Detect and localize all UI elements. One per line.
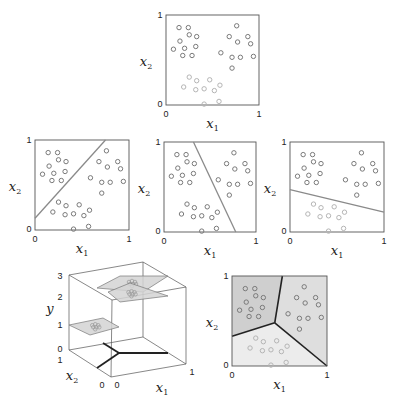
data-point-b <box>352 161 356 165</box>
data-point-b <box>373 169 377 173</box>
tick-x-1: 1 <box>253 236 258 246</box>
data-point-a <box>302 166 306 170</box>
tick-y-1: 1 <box>26 135 31 145</box>
data-point-b <box>116 159 120 163</box>
data-point-a <box>56 158 60 162</box>
data-point-b <box>216 178 220 182</box>
tick-x-1: 1 <box>324 370 329 380</box>
data-point-a <box>301 152 305 156</box>
data-point-b <box>246 34 250 38</box>
data-point-a <box>194 34 198 38</box>
data-point-c <box>210 215 214 219</box>
tick-x2-0: 0 <box>99 380 104 390</box>
data-point-a <box>310 152 314 156</box>
data-point-c <box>202 87 206 91</box>
data-point-a <box>190 53 194 57</box>
data-point-b <box>105 165 109 169</box>
data-point-c <box>192 206 196 210</box>
projected-boundary <box>97 353 119 368</box>
data-point-b <box>248 181 252 185</box>
data-point-c <box>71 212 75 216</box>
data-point-c <box>77 203 81 207</box>
cube-edge <box>111 300 112 377</box>
data-point-b <box>343 178 347 182</box>
data-point-c <box>64 204 68 208</box>
data-point-c <box>215 210 219 214</box>
data-point-c <box>56 200 60 204</box>
data-point-b <box>355 193 359 197</box>
data-point-b <box>227 193 231 197</box>
tick-x-1: 1 <box>256 109 261 119</box>
data-point-c <box>194 79 198 83</box>
tick-x-1: 1 <box>126 234 131 244</box>
data-point-b <box>121 179 125 183</box>
data-point-b <box>235 40 239 44</box>
data-point-c <box>319 206 323 210</box>
data-point-a <box>185 160 189 164</box>
data-point-b <box>108 180 112 184</box>
data-point-b <box>100 180 104 184</box>
tick-x-1: 1 <box>381 236 386 246</box>
tick-x-0: 0 <box>32 234 37 244</box>
data-point-b <box>248 42 252 46</box>
data-point-c <box>202 102 206 106</box>
tick-x-0: 0 <box>161 236 166 246</box>
separator-line <box>35 140 106 218</box>
data-point-b <box>251 54 255 58</box>
data-point-b <box>100 191 104 195</box>
data-point-a <box>177 25 181 29</box>
tick-y-1: 1 <box>57 320 62 330</box>
data-point-a <box>191 171 195 175</box>
data-point-a <box>184 152 188 156</box>
data-point-b <box>97 159 101 163</box>
x1-axis-label: x1 <box>204 243 216 260</box>
data-point-c <box>51 210 55 214</box>
data-point-b <box>230 66 234 70</box>
panels-group: 0101x1x20101x1x20101x1x20101x1x20101x1x2 <box>9 10 387 394</box>
data-point-c <box>179 212 183 216</box>
tick-y-0: 0 <box>155 226 160 236</box>
data-point-a <box>319 161 323 165</box>
data-point-a <box>63 169 67 173</box>
data-point-a <box>171 47 175 51</box>
data-point-c <box>326 214 330 218</box>
data-point-b <box>234 24 238 28</box>
figure-canvas: 0101x1x20101x1x20101x1x20101x1x20101x1x2… <box>0 0 396 404</box>
data-point-b <box>355 182 359 186</box>
tick-x1-1: 1 <box>189 367 194 377</box>
cube-3d-plot: 32101001yx2x1 <box>45 262 194 397</box>
tick-x1-0: 0 <box>114 380 119 390</box>
data-point-a <box>318 171 322 175</box>
tick-x-0: 0 <box>287 236 292 246</box>
data-point-a <box>46 150 50 154</box>
x2-axis-label: x2 <box>140 54 152 71</box>
data-point-c <box>71 227 75 231</box>
data-point-a <box>194 44 198 48</box>
panel-separator-b-vs-rest: 0101x1x2 <box>138 137 259 260</box>
x2-axis-label: x2 <box>138 181 150 198</box>
data-point-c <box>214 226 218 230</box>
data-point-b <box>104 149 108 153</box>
data-point-c <box>200 229 204 233</box>
data-point-b <box>238 55 242 59</box>
data-point-c <box>342 210 346 214</box>
data-point-c <box>311 202 315 206</box>
data-point-a <box>47 164 51 168</box>
data-point-b <box>224 161 228 165</box>
data-point-b <box>359 151 363 155</box>
data-point-a <box>64 159 68 163</box>
data-point-b <box>88 176 92 180</box>
data-point-a <box>187 33 191 37</box>
data-point-b <box>219 51 223 55</box>
tick-y-1: 1 <box>281 137 286 147</box>
x1-axis-label: x1 <box>206 116 218 133</box>
data-point-b <box>376 181 380 185</box>
x1-axis-label: x1 <box>331 243 343 260</box>
data-point-a <box>186 25 190 29</box>
data-point-a <box>178 39 182 43</box>
data-point-a <box>182 46 186 50</box>
separator-line <box>193 142 235 232</box>
data-point-c <box>63 213 67 217</box>
tick-y-1: 1 <box>157 10 162 20</box>
x1-axis-label: x1 <box>76 241 88 258</box>
